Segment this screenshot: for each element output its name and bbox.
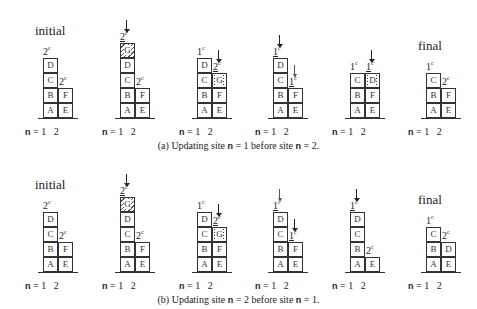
block-letter: D (47, 214, 54, 224)
block-letter: A (47, 259, 54, 269)
caption-text: (a) Updating site (158, 140, 228, 151)
block-a: A (197, 257, 212, 272)
block-e: E (58, 103, 73, 118)
complement-mark: c (447, 229, 450, 235)
block-a: A (120, 103, 135, 118)
block-letter: E (140, 259, 146, 269)
site-axis: n = 1 2 (179, 280, 213, 291)
block-c: C (197, 227, 212, 242)
block-letter: C (124, 75, 130, 85)
block-letter: G (124, 199, 131, 209)
site-axis: n = 1 2 (25, 280, 59, 291)
block-d: D (43, 58, 58, 73)
block-letter: F (63, 90, 68, 100)
block-letter: F (293, 244, 298, 254)
complement-mark: c (431, 214, 434, 220)
caption-text: (b) Updating site (158, 294, 228, 305)
complement-mark: c (48, 45, 51, 51)
block-e: E (135, 257, 150, 272)
block-d: D (350, 212, 365, 227)
down-arrow-icon (218, 204, 219, 214)
block-g: G (212, 227, 227, 242)
down-arrow-icon (279, 189, 280, 199)
block-letter: A (124, 259, 131, 269)
site-axis: n = 1 2 (255, 126, 289, 137)
block-letter: F (217, 244, 222, 254)
block-c: C (43, 227, 58, 242)
block-e: E (135, 103, 150, 118)
block-e: E (212, 103, 227, 118)
block-letter: C (354, 75, 360, 85)
block-e: E (58, 257, 73, 272)
block-f: F (365, 88, 380, 103)
ground-line (192, 118, 232, 119)
site-numbers: = 1 2 (31, 280, 59, 291)
update-label: 2c (136, 75, 144, 87)
block-b: B (43, 242, 58, 257)
ground-line (115, 272, 155, 273)
site-numbers: = 1 2 (31, 126, 59, 137)
down-arrow-icon (218, 50, 219, 60)
block-b: B (273, 88, 288, 103)
caption-text: = 1. (301, 294, 319, 305)
block-letter: C (277, 229, 283, 239)
complement-mark: c (141, 229, 144, 235)
block-letter: E (446, 259, 452, 269)
block-f: F (135, 88, 150, 103)
block-letter: B (201, 244, 207, 254)
block-e: E (441, 103, 456, 118)
block-letter: A (47, 105, 54, 115)
update-label: 1c (197, 45, 205, 57)
ground-line (115, 118, 155, 119)
block-letter: B (124, 244, 130, 254)
caption-text: = 1 before site (233, 140, 296, 151)
complement-mark: c (355, 60, 358, 66)
block-letter: B (354, 90, 360, 100)
site-numbers: = 1 2 (338, 280, 366, 291)
update-label: 2c (136, 229, 144, 241)
ground-line (345, 118, 385, 119)
block-letter: F (446, 90, 451, 100)
block-c: C (426, 73, 441, 88)
block-a: A (426, 103, 441, 118)
update-label: 2c (442, 75, 450, 87)
ground-line (38, 272, 78, 273)
block-d: D (120, 212, 135, 227)
block-g: G (120, 43, 135, 58)
block-e: E (288, 103, 303, 118)
down-arrow-icon (371, 50, 372, 60)
block-letter: D (445, 244, 452, 254)
block-letter: F (63, 244, 68, 254)
block-letter: C (277, 75, 283, 85)
block-letter: G (216, 75, 223, 85)
block-letter: A (430, 259, 437, 269)
block-b: B (43, 88, 58, 103)
block-g: G (120, 197, 135, 212)
site-numbers: = 1 2 (185, 280, 213, 291)
ground-line (421, 272, 461, 273)
block-letter: D (124, 214, 131, 224)
update-label: 2c (59, 229, 67, 241)
block-f: F (135, 242, 150, 257)
down-arrow-icon (294, 65, 295, 75)
block-c: C (350, 227, 365, 242)
block-letter: B (277, 90, 283, 100)
block-letter: B (277, 244, 283, 254)
site-axis: n = 1 2 (179, 126, 213, 137)
block-b: B (350, 242, 365, 257)
ground-line (268, 272, 308, 273)
block-a: A (273, 103, 288, 118)
block-letter: E (293, 105, 299, 115)
update-label: 2c (442, 229, 450, 241)
block-e: E (441, 257, 456, 272)
down-arrow-icon (356, 189, 357, 199)
block-e: E (288, 257, 303, 272)
block-letter: C (47, 75, 53, 85)
block-letter: A (124, 105, 131, 115)
block-f: F (58, 88, 73, 103)
block-c: C (43, 73, 58, 88)
site-axis: n = 1 2 (25, 126, 59, 137)
block-letter: C (124, 229, 130, 239)
block-c: C (350, 73, 365, 88)
site-numbers: = 1 2 (261, 280, 289, 291)
